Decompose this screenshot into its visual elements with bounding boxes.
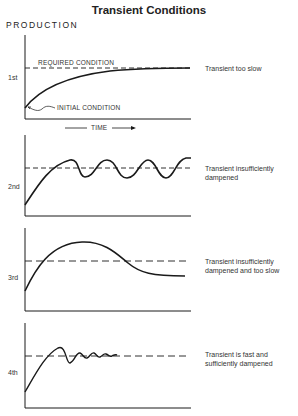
panel-3-chart xyxy=(25,228,191,311)
panel-1-curve xyxy=(25,68,190,108)
required-condition-label: REQUIRED CONDITION xyxy=(38,59,114,66)
panel-4-chart xyxy=(25,323,191,408)
panel-4-description: Transient is fast and sufficiently dampe… xyxy=(205,350,297,368)
initial-pointer xyxy=(28,106,55,110)
initial-condition-label: INITIAL CONDITION xyxy=(57,104,120,111)
panel-3-description: Transient insufficiently dampened and to… xyxy=(205,257,297,275)
panel-1-number: 1st xyxy=(8,74,17,81)
panel-4-number: 4th xyxy=(8,369,18,376)
panel-1-description: Transient too slow xyxy=(205,64,297,73)
x-axis-label: TIME xyxy=(91,124,107,131)
panel-2-description: Transient insufficiently dampened xyxy=(205,164,297,182)
panel-2-chart xyxy=(25,135,191,216)
panel-3-number: 3rd xyxy=(8,274,18,281)
panel-2-number: 2nd xyxy=(8,183,20,190)
